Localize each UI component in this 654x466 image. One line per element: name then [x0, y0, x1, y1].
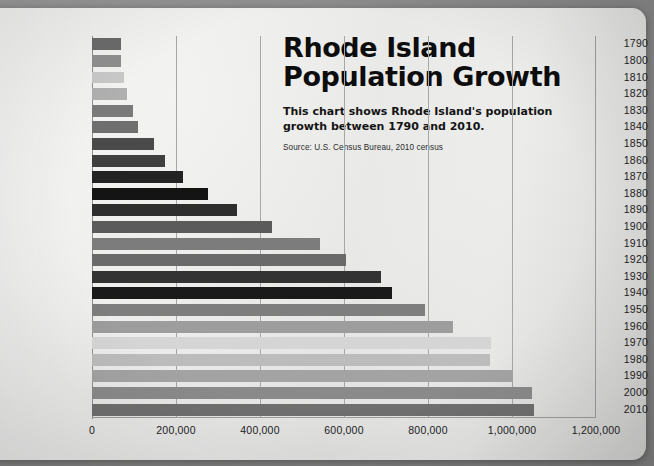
bar-row [92, 304, 595, 316]
bar-row [92, 370, 595, 382]
bar-1870 [92, 171, 183, 183]
y-tick-label-1990: 1990 [568, 370, 654, 381]
x-tick-label-200000: 200,000 [156, 424, 195, 436]
bar-1810 [92, 72, 124, 84]
bar-row [92, 271, 595, 283]
plot-area [92, 36, 596, 418]
bar-1990 [92, 370, 513, 382]
population-bar-chart: Rhode Island Population Growth This char… [0, 0, 654, 466]
bar-row [92, 72, 595, 84]
bar-row [92, 188, 595, 200]
bar-row [92, 321, 595, 333]
bar-1960 [92, 321, 453, 333]
bar-1950 [92, 304, 425, 316]
bar-1940 [92, 287, 392, 299]
bar-1840 [92, 121, 138, 133]
bar-row [92, 38, 595, 50]
bar-row [92, 138, 595, 150]
y-tick-label-1970: 1970 [568, 337, 654, 348]
bar-1860 [92, 155, 165, 167]
bar-row [92, 354, 595, 366]
bar-row [92, 105, 595, 117]
bar-1900 [92, 221, 272, 233]
bar-1820 [92, 88, 127, 100]
y-tick-label-2010: 2010 [568, 404, 654, 415]
bar-series [92, 36, 595, 417]
y-tick-label-1810: 1810 [568, 72, 654, 83]
y-tick-label-1930: 1930 [568, 271, 654, 282]
y-tick-label-1850: 1850 [568, 138, 654, 149]
bar-2000 [92, 387, 532, 399]
bar-1980 [92, 354, 490, 366]
y-tick-label-1820: 1820 [568, 88, 654, 99]
bar-row [92, 121, 595, 133]
x-tick-label-0: 0 [89, 424, 95, 436]
y-tick-label-1840: 1840 [568, 121, 654, 132]
x-tick-label-400000: 400,000 [240, 424, 279, 436]
bar-row [92, 221, 595, 233]
y-tick-label-1960: 1960 [568, 321, 654, 332]
photographed-page: Rhode Island Population Growth This char… [0, 0, 654, 466]
bar-1790 [92, 38, 121, 50]
bar-1880 [92, 188, 208, 200]
bar-row [92, 88, 595, 100]
bar-1850 [92, 138, 154, 150]
bar-1920 [92, 254, 346, 266]
y-tick-label-1870: 1870 [568, 171, 654, 182]
y-tick-label-1890: 1890 [568, 204, 654, 215]
bar-row [92, 55, 595, 67]
bar-1890 [92, 204, 237, 216]
y-tick-label-1880: 1880 [568, 188, 654, 199]
bar-1910 [92, 238, 320, 250]
y-tick-label-1800: 1800 [568, 55, 654, 66]
bar-1800 [92, 55, 121, 67]
bar-row [92, 155, 595, 167]
x-tick-label-600000: 600,000 [324, 424, 363, 436]
bar-1830 [92, 105, 133, 117]
y-tick-label-1900: 1900 [568, 221, 654, 232]
y-tick-label-1830: 1830 [568, 105, 654, 116]
y-tick-label-2000: 2000 [568, 387, 654, 398]
x-tick-label-1000000: 1,000,000 [488, 424, 537, 436]
bar-row [92, 238, 595, 250]
y-tick-label-1910: 1910 [568, 238, 654, 249]
y-tick-label-1980: 1980 [568, 354, 654, 365]
bar-row [92, 337, 595, 349]
bar-2010 [92, 404, 534, 416]
y-tick-label-1940: 1940 [568, 287, 654, 298]
bar-1930 [92, 271, 381, 283]
y-tick-label-1790: 1790 [568, 38, 654, 49]
bar-row [92, 404, 595, 416]
bar-row [92, 171, 595, 183]
bar-1970 [92, 337, 491, 349]
y-tick-label-1920: 1920 [568, 254, 654, 265]
bar-row [92, 204, 595, 216]
x-tick-label-800000: 800,000 [408, 424, 447, 436]
bar-row [92, 254, 595, 266]
y-tick-label-1950: 1950 [568, 304, 654, 315]
x-tick-label-1200000: 1,200,000 [572, 424, 621, 436]
bar-row [92, 387, 595, 399]
bar-row [92, 287, 595, 299]
y-tick-label-1860: 1860 [568, 155, 654, 166]
